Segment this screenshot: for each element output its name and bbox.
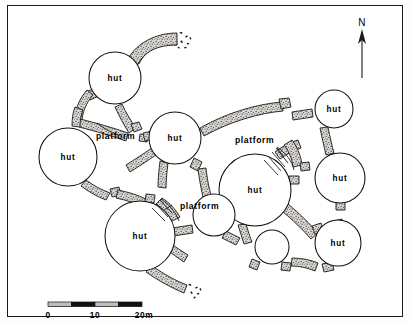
wall-ne-cap	[279, 98, 291, 109]
platform-label-sw: platform	[180, 201, 219, 211]
hut-label-west: hut	[61, 153, 76, 162]
hut-label-nw-top: hut	[108, 74, 123, 83]
hut-label-se: hut	[331, 239, 346, 248]
platform-label-upper: platform	[96, 131, 135, 141]
scale-tick-0: 0	[45, 310, 50, 320]
wall-mid-vertical	[198, 168, 211, 197]
hut-label-sw-large: hut	[133, 232, 148, 241]
scale-seg-2	[95, 302, 119, 307]
hut-label-core: hut	[248, 186, 263, 195]
scale-tick-10: 10	[90, 310, 100, 320]
site-plan-drawing: hut hut hut hut hut hut hut hut platform…	[0, 0, 411, 324]
scale-tick-20: 20m	[135, 310, 153, 320]
unlabeled-circle-low	[255, 230, 289, 264]
wall-core-south	[238, 224, 252, 244]
north-arrow: N	[358, 17, 366, 78]
scale-seg-3	[119, 302, 143, 307]
north-arrow-label: N	[358, 17, 366, 28]
hut-label-east: hut	[333, 174, 348, 183]
wall-center-to-ne	[200, 102, 283, 136]
hut-label-ne: hut	[327, 105, 342, 114]
site-plan-figure: hut hut hut hut hut hut hut hut platform…	[0, 0, 411, 324]
platform-label-core: platform	[235, 135, 274, 145]
scale-seg-1	[72, 302, 96, 307]
wall-west-south	[81, 180, 110, 200]
hut-label-center: hut	[168, 134, 183, 143]
wall-ne-to-east	[320, 127, 334, 155]
wall-lowcircle-left	[249, 259, 260, 270]
wall-lowcircle-stub	[281, 262, 291, 271]
wall-sw-south	[146, 266, 187, 293]
wall-core-east-blob	[300, 162, 310, 171]
wall-ne-stub	[292, 109, 313, 120]
scale-bar: 0 10 20m	[45, 302, 153, 320]
rubble-scatter-north	[177, 32, 191, 49]
wall-center-sw	[126, 148, 156, 172]
wall-se-west	[291, 258, 318, 271]
rubble-scatter-south	[188, 284, 201, 299]
scale-seg-0	[48, 302, 72, 307]
wall-center-s	[158, 161, 168, 188]
wall-core-to-se	[282, 204, 318, 239]
